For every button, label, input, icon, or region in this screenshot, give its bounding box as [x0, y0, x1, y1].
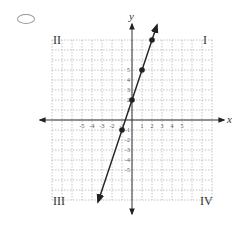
x-tick-label: 2	[151, 123, 154, 129]
data-point	[149, 37, 155, 43]
y-tick-label: -3	[125, 147, 130, 153]
y-tick-label: 3	[127, 87, 130, 93]
quadrant-label-iv: IV	[200, 194, 213, 209]
y-tick-label: -4	[125, 157, 130, 163]
data-point	[119, 127, 125, 133]
x-tick-label: 5	[181, 123, 184, 129]
y-tick-label: -2	[125, 137, 130, 143]
x-tick-label: -3	[100, 123, 105, 129]
x-tick-label: 1	[141, 123, 144, 129]
y-axis-label: y	[128, 10, 134, 22]
x-tick-label: -5	[80, 123, 85, 129]
x-tick-label: -2	[110, 123, 115, 129]
quadrant-label-iii: III	[53, 194, 65, 209]
y-tick-label: -1	[125, 127, 130, 133]
data-point	[129, 97, 135, 103]
y-tick-label: 4	[127, 77, 130, 83]
quadrant-label-ii: II	[53, 33, 61, 48]
x-axis-label: x	[226, 113, 232, 125]
data-point	[139, 67, 145, 73]
x-tick-label: 4	[171, 123, 174, 129]
y-tick-label: -5	[125, 167, 130, 173]
quadrant-label-i: I	[203, 33, 207, 48]
x-tick-label: -4	[90, 123, 95, 129]
x-tick-label: 3	[161, 123, 164, 129]
plotted-line	[98, 25, 157, 202]
y-tick-label: 5	[127, 67, 130, 73]
